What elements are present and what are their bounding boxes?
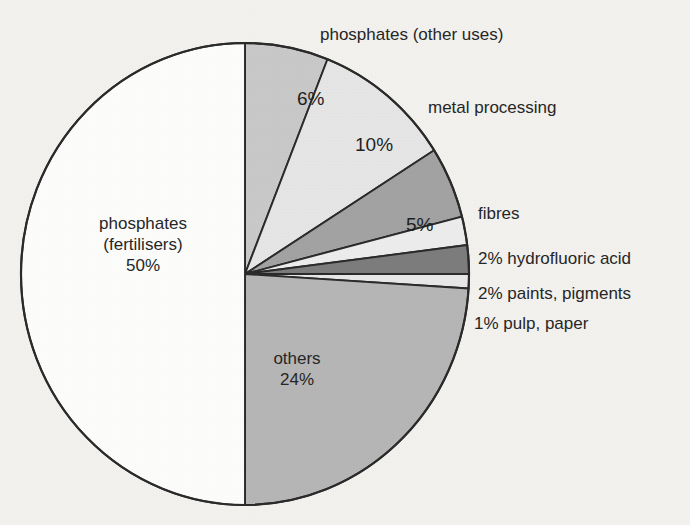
- slice-label-phosphates-fertilisers-line2: (fertilisers): [68, 234, 218, 255]
- slice-value-fibres: 5%: [406, 214, 433, 236]
- slice-value-phosphates-fertilisers: 50%: [68, 255, 218, 276]
- slice-label-phosphates-fertilisers-line1: phosphates: [68, 213, 218, 234]
- slice-value-phosphates-other-uses: 6%: [297, 88, 324, 110]
- slice-label-pulp-paper: 1% pulp, paper: [474, 313, 588, 334]
- slice-label-phosphates-other-uses: phosphates (other uses): [320, 24, 503, 45]
- slice-value-others: 24%: [257, 369, 337, 390]
- slice-label-hydrofluoric-acid: 2% hydrofluoric acid: [478, 248, 631, 269]
- pie-chart-figure: phosphates (other uses) metal processing…: [0, 0, 690, 525]
- slice-label-others-line1: others: [257, 348, 337, 369]
- slice-label-metal-processing: metal processing: [428, 97, 557, 118]
- slice-label-fibres: fibres: [478, 203, 520, 224]
- slice-label-paints-pigments: 2% paints, pigments: [478, 283, 631, 304]
- slice-label-phosphates-fertilisers: phosphates (fertilisers) 50%: [68, 213, 218, 276]
- slice-label-others: others 24%: [257, 348, 337, 390]
- slice-value-metal-processing: 10%: [355, 134, 393, 156]
